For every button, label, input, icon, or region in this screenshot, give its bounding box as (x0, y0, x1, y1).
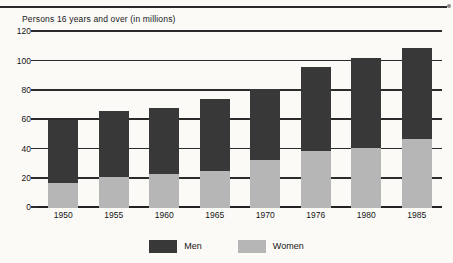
bar-segment-women-1955 (99, 177, 129, 208)
corner-dot-mark (447, 4, 451, 8)
legend-swatch-women-icon (238, 240, 266, 253)
y-tick-label-60: 60 (22, 114, 31, 124)
y-tick-mark-0 (31, 206, 38, 208)
bar-1985 (402, 48, 432, 208)
bar-segment-men-1955 (99, 111, 129, 177)
bar-segment-women-1950 (48, 183, 78, 208)
bar-1980 (351, 58, 381, 208)
y-tick-mark-20 (31, 177, 38, 179)
bar-segment-men-1970 (250, 89, 280, 159)
y-tick-mark-40 (31, 148, 38, 150)
y-tick-label-0: 0 (26, 202, 31, 212)
top-divider-rule (0, 6, 447, 8)
x-axis-label-1980: 1980 (344, 210, 388, 220)
bar-segment-men-1960 (149, 108, 179, 174)
bar-segment-women-1980 (351, 148, 381, 208)
bar-segment-women-1985 (402, 139, 432, 208)
legend-label-women: Women (273, 241, 304, 251)
y-tick-mark-60 (31, 118, 38, 120)
legend-label-men: Men (184, 241, 202, 251)
legend-swatch-men-icon (149, 240, 177, 253)
y-tick-mark-100 (31, 60, 38, 62)
x-axis-labels: 19501955196019651970197619801985 (38, 210, 442, 224)
bar-segment-men-1950 (48, 120, 78, 183)
bar-segment-men-1985 (402, 48, 432, 139)
bar-segment-women-1960 (149, 174, 179, 208)
x-axis-label-1960: 1960 (142, 210, 186, 220)
y-tick-label-100: 100 (17, 56, 31, 66)
x-axis-label-1955: 1955 (92, 210, 136, 220)
x-axis-label-1950: 1950 (41, 210, 85, 220)
legend-item-men: Men (149, 240, 202, 253)
bar-1970 (250, 89, 280, 208)
y-tick-label-20: 20 (22, 173, 31, 183)
bar-1950 (48, 120, 78, 208)
y-tick-label-80: 80 (22, 85, 31, 95)
chart-legend: Men Women (0, 238, 453, 254)
bars-group (38, 32, 442, 208)
bar-segment-men-1980 (351, 58, 381, 147)
y-tick-label-40: 40 (22, 144, 31, 154)
plot-area: 020406080100120 (38, 32, 442, 208)
bar-1960 (149, 108, 179, 208)
y-tick-mark-80 (31, 89, 38, 91)
x-axis-label-1985: 1985 (395, 210, 439, 220)
x-axis-label-1970: 1970 (243, 210, 287, 220)
bar-1965 (200, 99, 230, 208)
chart-caption: Persons 16 years and over (in millions) (22, 14, 176, 24)
x-axis-label-1976: 1976 (294, 210, 338, 220)
bar-1955 (99, 111, 129, 208)
bar-segment-men-1976 (301, 67, 331, 151)
legend-item-women: Women (238, 240, 304, 253)
bar-segment-women-1965 (200, 171, 230, 208)
chart-figure: Persons 16 years and over (in millions) … (0, 0, 453, 263)
y-tick-label-120: 120 (17, 26, 31, 36)
y-tick-mark-120 (31, 30, 38, 32)
bar-segment-women-1976 (301, 151, 331, 208)
bar-segment-men-1965 (200, 99, 230, 171)
bar-segment-women-1970 (250, 160, 280, 208)
bar-1976 (301, 67, 331, 208)
x-axis-label-1965: 1965 (193, 210, 237, 220)
